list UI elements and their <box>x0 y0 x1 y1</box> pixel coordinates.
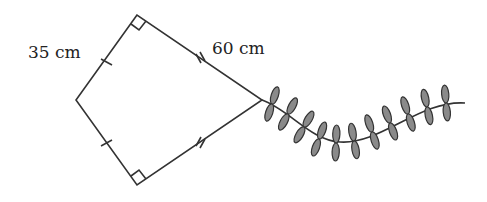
label-long-side: 60 cm <box>212 38 265 58</box>
right-angle-mark-bottom <box>131 170 146 179</box>
tick-mark-lower-left <box>101 140 112 146</box>
right-angle-mark-top <box>131 21 146 30</box>
kite-diagram <box>0 0 487 202</box>
label-short-side: 35 cm <box>28 42 81 62</box>
tail-bows <box>263 85 451 161</box>
